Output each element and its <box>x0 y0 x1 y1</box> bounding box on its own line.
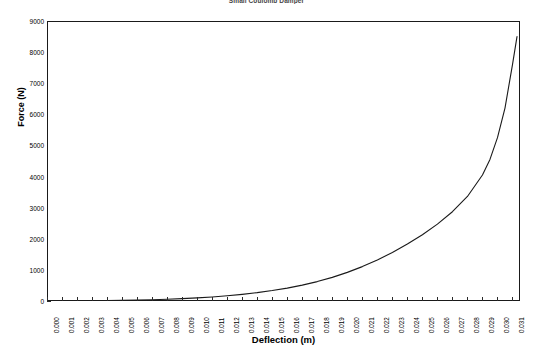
x-axis-tick-label: 0.008 <box>173 303 180 333</box>
plot-area <box>47 21 520 301</box>
x-axis-tick-mark <box>392 297 393 301</box>
x-axis-tick-mark <box>482 297 483 301</box>
x-axis-tick-label: 0.025 <box>428 303 435 333</box>
x-axis-tick-label: 0.007 <box>158 303 165 333</box>
x-axis-tick-label: 0.022 <box>383 303 390 333</box>
x-axis-tick-mark <box>152 297 153 301</box>
x-axis-tick-label: 0.015 <box>278 303 285 333</box>
x-axis-tick-mark <box>122 297 123 301</box>
x-axis-tick-marks <box>47 297 520 302</box>
y-axis-tick-label: 3000 <box>4 204 44 211</box>
x-axis-tick-label: 0.003 <box>98 303 105 333</box>
y-axis-tick-label: 1000 <box>4 266 44 273</box>
x-axis-tick-mark <box>422 297 423 301</box>
x-axis-tick-label: 0.012 <box>233 303 240 333</box>
x-axis-tick-label: 0.000 <box>53 303 60 333</box>
x-axis-tick-label: 0.017 <box>308 303 315 333</box>
x-axis-tick-mark <box>317 297 318 301</box>
x-axis-tick-label: 0.026 <box>443 303 450 333</box>
x-axis-tick-label: 0.002 <box>83 303 90 333</box>
x-axis-tick-labels: 0.0000.0010.0020.0030.0040.0050.0060.007… <box>47 303 520 333</box>
force-deflection-curve <box>47 21 520 301</box>
x-axis-tick-mark <box>77 297 78 301</box>
x-axis-tick-mark <box>302 297 303 301</box>
x-axis-tick-label: 0.009 <box>188 303 195 333</box>
x-axis-tick-label: 0.030 <box>503 303 510 333</box>
x-axis-tick-mark <box>272 297 273 301</box>
x-axis-tick-label: 0.014 <box>263 303 270 333</box>
chart-title: Small Coulomb Damper <box>0 0 533 4</box>
x-axis-label: Deflection (m) <box>47 334 520 345</box>
x-axis-tick-label: 0.024 <box>413 303 420 333</box>
x-axis-tick-label: 0.001 <box>68 303 75 333</box>
x-axis-tick-mark <box>62 297 63 301</box>
x-axis-tick-mark <box>182 297 183 301</box>
x-axis-tick-label: 0.010 <box>203 303 210 333</box>
x-axis-tick-mark <box>362 297 363 301</box>
x-axis-tick-mark <box>107 297 108 301</box>
x-axis-tick-label: 0.020 <box>353 303 360 333</box>
x-axis-tick-label: 0.011 <box>218 303 225 333</box>
x-axis-tick-label: 0.016 <box>293 303 300 333</box>
x-axis-tick-label: 0.023 <box>398 303 405 333</box>
y-axis-tick-label: 5000 <box>4 142 44 149</box>
y-axis-tick-labels: 0100020003000400050006000700080009000 <box>0 21 44 301</box>
x-axis-tick-label: 0.019 <box>338 303 345 333</box>
series-line-force <box>47 37 517 301</box>
x-axis-tick-mark <box>407 297 408 301</box>
x-axis-tick-label: 0.027 <box>458 303 465 333</box>
x-axis-tick-mark <box>347 297 348 301</box>
y-axis-tick-label: 4000 <box>4 173 44 180</box>
x-axis-tick-mark <box>212 297 213 301</box>
chart-container: Small Coulomb Damper Force (N) 010002000… <box>0 0 533 353</box>
x-axis-tick-label: 0.006 <box>143 303 150 333</box>
x-axis-tick-mark <box>467 297 468 301</box>
x-axis-tick-mark <box>167 297 168 301</box>
y-axis-tick-label: 6000 <box>4 111 44 118</box>
x-axis-tick-label: 0.013 <box>248 303 255 333</box>
x-axis-tick-mark <box>512 297 513 301</box>
x-axis-tick-label: 0.018 <box>323 303 330 333</box>
x-axis-tick-mark <box>197 297 198 301</box>
x-axis-tick-mark <box>452 297 453 301</box>
x-axis-tick-mark <box>242 297 243 301</box>
y-axis-tick-label: 7000 <box>4 80 44 87</box>
x-axis-tick-mark <box>47 297 48 301</box>
x-axis-tick-mark <box>137 297 138 301</box>
x-axis-tick-mark <box>497 297 498 301</box>
x-axis-tick-mark <box>92 297 93 301</box>
y-axis-tick-label: 8000 <box>4 49 44 56</box>
y-axis-tick-label: 2000 <box>4 235 44 242</box>
x-axis-tick-label: 0.028 <box>473 303 480 333</box>
y-axis-tick-label: 9000 <box>4 18 44 25</box>
x-axis-tick-label: 0.031 <box>518 303 525 333</box>
x-axis-tick-mark <box>332 297 333 301</box>
x-axis-tick-label: 0.021 <box>368 303 375 333</box>
y-axis-tick-label: 0 <box>4 298 44 305</box>
x-axis-tick-label: 0.005 <box>128 303 135 333</box>
x-axis-tick-mark <box>437 297 438 301</box>
x-axis-tick-label: 0.029 <box>488 303 495 333</box>
x-axis-tick-label: 0.004 <box>113 303 120 333</box>
x-axis-tick-mark <box>287 297 288 301</box>
x-axis-tick-mark <box>257 297 258 301</box>
x-axis-tick-mark <box>227 297 228 301</box>
x-axis-tick-mark <box>377 297 378 301</box>
